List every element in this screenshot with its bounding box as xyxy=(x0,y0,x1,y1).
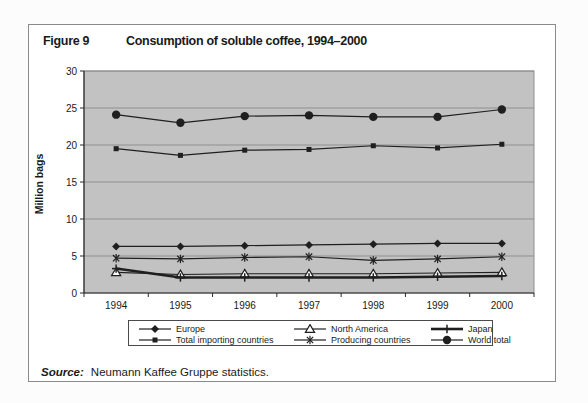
legend-label: Producing countries xyxy=(331,335,411,345)
legend-marker-plus xyxy=(430,324,464,334)
x-tick-label: 1998 xyxy=(362,300,385,311)
source-text: Neumann Kaffee Gruppe statistics. xyxy=(91,366,269,378)
legend-item-world-total: World total xyxy=(430,334,511,345)
legend-marker-diamond-filled xyxy=(138,324,172,334)
marker-square-filled xyxy=(371,143,376,148)
legend-item-europe: Europe xyxy=(138,323,293,334)
legend: EuropeNorth AmericaJapanTotal importing … xyxy=(128,320,493,346)
source-label: Source: xyxy=(41,366,84,378)
legend-marker-square-filled xyxy=(138,335,172,345)
legend-item-north-america: North America xyxy=(293,323,430,334)
x-tick-label: 2000 xyxy=(491,300,514,311)
marker-circle-filled xyxy=(498,105,506,113)
marker-square-filled xyxy=(242,148,247,153)
marker-square-filled xyxy=(178,153,183,158)
legend-marker-circle-filled xyxy=(430,335,464,345)
legend-marker-triangle-open xyxy=(293,324,327,334)
marker-circle-filled xyxy=(433,113,441,121)
chart-canvas: 0510152025301994199519961997199819992000… xyxy=(29,47,557,317)
y-tick-label: 10 xyxy=(66,214,78,225)
legend-label: Europe xyxy=(176,324,205,334)
marker-plus xyxy=(443,324,451,332)
legend-item-producing-countries: Producing countries xyxy=(293,334,430,345)
marker-circle-filled xyxy=(305,111,313,119)
page: Figure 9Consumption of soluble coffee, 1… xyxy=(0,0,588,403)
marker-square-filled xyxy=(114,146,119,151)
legend-marker-asterisk xyxy=(293,335,327,345)
figure-label: Figure 9 xyxy=(43,34,126,48)
marker-circle-filled xyxy=(112,110,120,118)
y-tick-label: 5 xyxy=(71,251,77,262)
marker-diamond-filled xyxy=(151,325,159,333)
source-line: Source:Neumann Kaffee Gruppe statistics. xyxy=(41,366,269,378)
marker-circle-filled xyxy=(176,119,184,127)
y-tick-label: 25 xyxy=(66,103,78,114)
x-tick-label: 1995 xyxy=(169,300,192,311)
legend-item-total-importing-countries: Total importing countries xyxy=(138,334,293,345)
x-tick-label: 1999 xyxy=(426,300,449,311)
marker-square-filled xyxy=(435,145,440,150)
marker-square-filled xyxy=(307,147,312,152)
marker-square-filled xyxy=(153,337,158,342)
marker-square-filled xyxy=(499,142,504,147)
legend-label: Total importing countries xyxy=(176,335,274,345)
marker-circle-filled xyxy=(369,113,377,121)
legend-item-japan: Japan xyxy=(430,323,511,334)
x-tick-label: 1997 xyxy=(298,300,321,311)
x-tick-label: 1994 xyxy=(105,300,128,311)
marker-circle-filled xyxy=(241,112,249,120)
x-tick-label: 1996 xyxy=(234,300,257,311)
y-tick-label: 20 xyxy=(66,140,78,151)
y-tick-label: 30 xyxy=(66,66,78,77)
figure-title: Consumption of soluble coffee, 1994–2000 xyxy=(126,34,367,48)
legend-label: World total xyxy=(468,335,511,345)
y-axis-title: Million bags xyxy=(33,154,45,215)
legend-label: Japan xyxy=(468,324,493,334)
y-tick-label: 15 xyxy=(66,177,78,188)
legend-label: North America xyxy=(331,324,388,334)
figure-box: Figure 9Consumption of soluble coffee, 1… xyxy=(28,24,556,382)
marker-circle-filled xyxy=(443,335,451,343)
y-tick-label: 0 xyxy=(71,288,77,299)
figure-header: Figure 9Consumption of soluble coffee, 1… xyxy=(43,31,367,47)
